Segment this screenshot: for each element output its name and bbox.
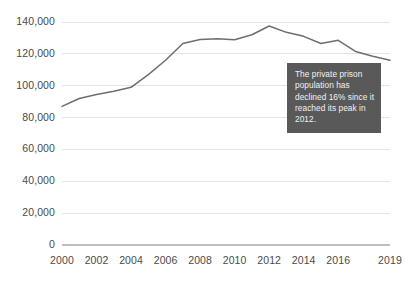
y-axis-tick-label: 0 <box>49 238 55 250</box>
y-axis-tick-label: 40,000 <box>22 174 55 186</box>
x-axis-tick-label: 2016 <box>313 254 363 266</box>
y-axis-tick-label: 60,000 <box>22 142 55 154</box>
annotation-text: The private prison population has declin… <box>295 69 374 125</box>
y-axis-tick-label: 20,000 <box>22 206 55 218</box>
y-axis-tick-label: 140,000 <box>16 15 55 27</box>
y-axis-tick-label: 100,000 <box>16 79 55 91</box>
y-axis-tick-label: 120,000 <box>16 47 55 59</box>
annotation-callout: The private prison population has declin… <box>287 63 381 133</box>
x-axis-tick-label: 2019 <box>365 254 406 266</box>
y-axis-tick-label: 80,000 <box>22 111 55 123</box>
